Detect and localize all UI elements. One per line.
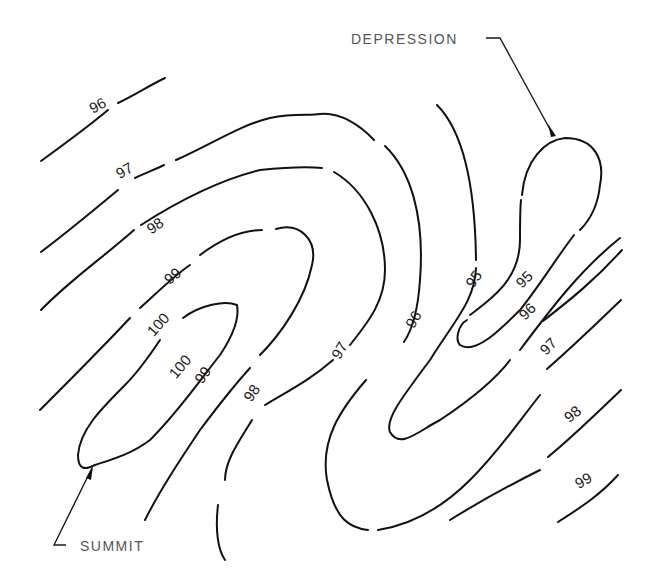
- contour-label-98: 98: [561, 402, 585, 426]
- contour-label-99: 99: [572, 469, 595, 492]
- contour-label-97: 97: [328, 339, 351, 362]
- contour-labels: 9697989910010099989796959596979899: [86, 94, 595, 492]
- contour-label-95: 95: [462, 267, 485, 290]
- depression-leader-line: [486, 38, 552, 133]
- summit-leader-line: [54, 468, 92, 545]
- contour-label-97: 97: [113, 159, 136, 182]
- contour-line-98-right: [450, 390, 621, 520]
- depression-callout-label: DEPRESSION: [351, 31, 458, 47]
- contour-label-95: 95: [512, 267, 536, 291]
- contour-line-96-upper-left: [41, 78, 165, 161]
- depression-arrowhead-icon: [548, 124, 556, 137]
- contour-label-96: 96: [515, 299, 539, 323]
- summit-callout-label: SUMMIT: [80, 538, 144, 554]
- contour-label-98: 98: [240, 381, 263, 404]
- contour-line-96-inner: [389, 105, 620, 439]
- contour-map: DEPRESSION SUMMIT 9697989910010099989796…: [0, 0, 653, 574]
- contour-label-97: 97: [536, 334, 560, 358]
- contour-label-99: 99: [161, 264, 185, 288]
- contour-label-100: 100: [143, 309, 172, 339]
- contour-label-96: 96: [402, 308, 425, 331]
- contour-label-98: 98: [143, 214, 166, 237]
